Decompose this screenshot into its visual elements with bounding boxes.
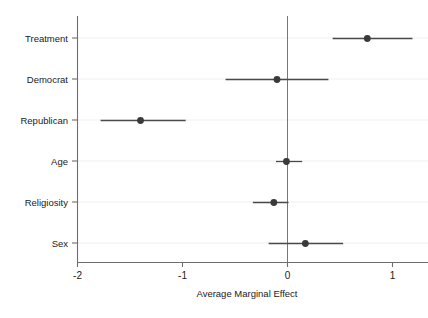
y-axis-label-age: Age	[51, 156, 68, 167]
point-estimate-democrat	[274, 76, 281, 83]
x-axis-title: Average Marginal Effect	[196, 288, 297, 299]
y-axis-label-democrat: Democrat	[27, 74, 69, 85]
x-tick-label-pos1: 1	[390, 270, 396, 281]
point-estimate-religiosity	[270, 199, 277, 206]
point-estimate-sex	[302, 240, 309, 247]
y-axis-label-republican: Republican	[20, 115, 68, 126]
x-tick-label-zero: 0	[285, 270, 291, 281]
point-estimate-treatment	[364, 35, 371, 42]
point-estimate-republican	[137, 117, 144, 124]
y-axis-label-religiosity: Religiosity	[25, 197, 69, 208]
point-estimate-age	[283, 158, 290, 165]
x-tick-label-neg2: -2	[73, 270, 82, 281]
x-tick-label-neg1: -1	[178, 270, 187, 281]
chart-canvas: Treatment Democrat Republican Age Religi…	[0, 0, 428, 318]
coefficient-plot-figure: Treatment Democrat Republican Age Religi…	[0, 0, 428, 318]
y-axis-label-treatment: Treatment	[25, 33, 68, 44]
y-axis-label-sex: Sex	[52, 238, 69, 249]
